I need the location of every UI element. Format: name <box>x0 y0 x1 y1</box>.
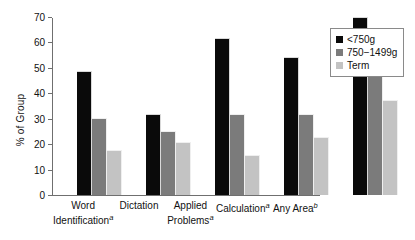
legend-item-1: 750−1499g <box>336 46 397 59</box>
bar-groups <box>53 18 320 195</box>
y-axis-tick-label: 70 <box>34 13 45 23</box>
y-axis-tick <box>48 170 52 171</box>
bar[interactable] <box>230 114 245 195</box>
y-axis-tick-label: 50 <box>34 64 45 74</box>
bar[interactable] <box>314 137 329 195</box>
y-axis-tick <box>48 17 52 18</box>
bar[interactable] <box>284 57 299 195</box>
y-axis-tick <box>48 68 52 69</box>
legend-swatch-icon <box>336 62 343 69</box>
bar[interactable] <box>146 114 161 195</box>
bar[interactable] <box>92 118 107 195</box>
legend-label: <750g <box>347 35 375 45</box>
legend-item-2: Term <box>336 59 397 72</box>
y-axis-tick-label: 0 <box>39 191 45 201</box>
y-axis-tick <box>48 195 52 196</box>
y-axis-tick-label: 20 <box>34 140 45 150</box>
y-axis-tick <box>48 119 52 120</box>
bar[interactable] <box>161 131 176 195</box>
x-axis-labels: WordIdentificationaDictationAppliedProbl… <box>53 200 321 227</box>
plot-area: 010203040506070 <box>52 18 320 196</box>
y-axis-tick <box>48 42 52 43</box>
bar[interactable] <box>77 71 92 195</box>
legend-label: 750−1499g <box>347 48 397 58</box>
y-axis-tick <box>48 93 52 94</box>
bar-group <box>53 18 122 195</box>
x-axis-category-label: Any Areab <box>270 200 321 227</box>
y-axis-tick-label: 10 <box>34 166 45 176</box>
x-axis-category-label: AppliedProblemsa <box>165 200 216 227</box>
y-axis-tick <box>48 144 52 145</box>
bar[interactable] <box>176 142 191 195</box>
legend-swatch-icon <box>336 49 343 56</box>
x-axis-category-label: WordIdentificationa <box>53 200 113 227</box>
x-axis-category-label: Calculationa <box>216 200 270 227</box>
bar-chart: % of Group 010203040506070 WordIdentific… <box>0 0 415 240</box>
x-axis-line <box>52 195 320 196</box>
bar-group <box>122 18 191 195</box>
y-axis-tick-label: 60 <box>34 38 45 48</box>
x-axis-category-label: Dictation <box>113 200 164 227</box>
y-axis-tick-label: 30 <box>34 115 45 125</box>
bar-group <box>191 18 260 195</box>
bar[interactable] <box>245 155 260 195</box>
y-axis-title: % of Group <box>15 94 26 147</box>
bar[interactable] <box>299 114 314 195</box>
legend: <750g 750−1499g Term <box>330 28 404 77</box>
legend-swatch-icon <box>336 36 343 43</box>
legend-label: Term <box>347 61 369 71</box>
bar[interactable] <box>107 150 122 196</box>
bar[interactable] <box>215 38 230 195</box>
legend-item-0: <750g <box>336 33 397 46</box>
bar[interactable] <box>383 100 398 195</box>
bar-group <box>260 18 329 195</box>
y-axis-tick-label: 40 <box>34 89 45 99</box>
